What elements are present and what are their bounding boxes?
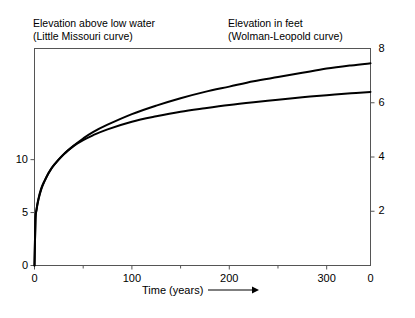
x-axis-title-text: Time (years) [142, 284, 203, 296]
x-tick-label: 0 [15, 273, 55, 284]
x-axis-title: Time (years) [142, 284, 260, 297]
x-tick-label: 300 [307, 273, 347, 284]
right-axis-zero-label: 0 [359, 273, 383, 284]
right-tick-label: 6 [379, 97, 385, 108]
left-tick-label: 5 [6, 207, 28, 218]
x-axis-ticks [35, 266, 327, 270]
right-arrow-icon [208, 285, 260, 297]
right-tick-label: 2 [379, 205, 385, 216]
axis-frame [35, 49, 371, 266]
chart-figure: Elevation above low water (Little Missou… [0, 0, 415, 318]
series-line-wolman-leopold [35, 92, 371, 266]
data-series-group [35, 63, 371, 265]
right-tick-label: 4 [379, 151, 385, 162]
right-axis-ticks [371, 103, 375, 212]
series-line-little-missouri [35, 63, 371, 265]
left-tick-label: 0 [6, 260, 28, 271]
left-tick-label: 10 [6, 154, 28, 165]
x-tick-label: 200 [209, 273, 249, 284]
x-tick-label: 100 [112, 273, 152, 284]
right-tick-label: 8 [379, 43, 385, 54]
chart-plot-area [0, 0, 415, 318]
